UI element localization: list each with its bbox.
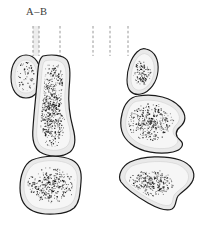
figure-panel: A–B (0, 0, 207, 228)
shape-wedge-lower-right (120, 157, 194, 210)
guide-shaded-band (33, 26, 39, 56)
shape-kidney-middle-right (121, 95, 185, 153)
section-label-ab: A–B (26, 7, 48, 18)
shape-elongated-bone-left (33, 55, 75, 156)
shape-teardrop-oval-upper-right (127, 49, 158, 95)
bone-cross-section-diagram (0, 0, 207, 228)
dashed-reference-lines (33, 26, 128, 56)
shape-rounded-quad-lower-left (20, 156, 81, 214)
